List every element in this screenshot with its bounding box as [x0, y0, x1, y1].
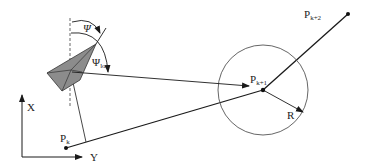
- line-of-sight-vector: [72, 72, 249, 86]
- pk2-label: Pk+2: [304, 8, 322, 22]
- vessel-icon: [47, 44, 96, 91]
- pk1-label: Pk+1: [250, 73, 268, 87]
- x-axis-label: X: [27, 101, 35, 113]
- psi-label: Ψ: [83, 22, 92, 34]
- y-axis-label: Y: [90, 151, 98, 163]
- waypoint-pk2: [346, 12, 350, 16]
- path-segment-k-to-k1: [66, 90, 263, 148]
- cross-track-line: [72, 78, 86, 142]
- waypoint-pk1: [261, 88, 265, 92]
- waypoint-pk: [64, 146, 68, 150]
- pk-label: Pk: [60, 132, 70, 146]
- path-segment-k1-to-k2: [263, 14, 348, 90]
- los-guidance-diagram: Ψ Ψlos Pk Pk+1 Pk+2 R X Y: [0, 0, 367, 165]
- radius-label: R: [287, 109, 295, 121]
- radius-arrow: [263, 90, 303, 112]
